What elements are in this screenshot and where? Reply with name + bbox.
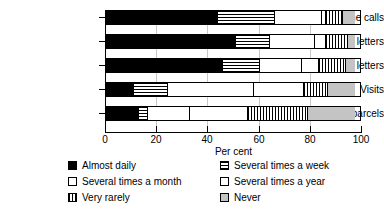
- segment-several-times-a-year: [189, 107, 247, 120]
- bar-receiving-letters: [105, 58, 361, 73]
- x-tick-100: [361, 126, 362, 133]
- segment-very-rarely: [325, 35, 348, 48]
- legend-column-right: Several times a week Several times a yea…: [220, 158, 329, 206]
- legend-swatch-never: [220, 193, 229, 202]
- legend-item-very-rarely: Very rarely: [68, 190, 182, 205]
- segment-never: [342, 11, 355, 24]
- segment-almost-daily: [106, 59, 223, 72]
- x-tick-label-40: 40: [192, 134, 222, 145]
- legend-item-never: Never: [220, 190, 329, 205]
- segment-very-rarely: [303, 83, 328, 96]
- segment-almost-daily: [106, 35, 236, 48]
- legend-label-several-times-a-year: Several times a year: [234, 176, 325, 188]
- segment-almost-daily: [106, 11, 218, 24]
- x-tick-60: [259, 126, 260, 133]
- segment-very-rarely: [325, 11, 343, 24]
- legend-label-almost-daily: Almost daily: [82, 160, 136, 172]
- x-tick-label-80: 80: [295, 134, 325, 145]
- bar-making-phone-calls: [105, 10, 361, 25]
- legend-swatch-several-times-a-year: [220, 177, 229, 186]
- legend-swatch-several-times-a-week: [220, 161, 229, 170]
- bar-writing-letters: [105, 34, 361, 49]
- x-tick-label-20: 20: [141, 134, 171, 145]
- stacked-bar-chart: Making phone calls Writing letters Recei…: [0, 0, 384, 209]
- legend-swatch-almost-daily: [68, 161, 77, 170]
- segment-several-times-a-month: [259, 59, 302, 72]
- legend-item-almost-daily: Almost daily: [68, 158, 182, 173]
- x-tick-40: [207, 126, 208, 133]
- x-tick-80: [310, 126, 311, 133]
- bar-receiving-parcels: [105, 106, 361, 121]
- segment-almost-daily: [106, 107, 139, 120]
- segment-several-times-a-week: [235, 35, 271, 48]
- segment-several-times-a-week: [133, 83, 169, 96]
- legend-column-left: Almost daily Several times a month Very …: [68, 158, 182, 206]
- segment-several-times-a-month: [274, 11, 322, 24]
- legend-item-several-times-a-week: Several times a week: [220, 158, 329, 173]
- segment-never: [345, 59, 355, 72]
- legend-swatch-several-times-a-month: [68, 177, 77, 186]
- segment-never: [347, 35, 355, 48]
- segment-several-times-a-month: [167, 83, 253, 96]
- legend-label-never: Never: [234, 192, 261, 204]
- segment-never: [327, 83, 355, 96]
- segment-almost-daily: [106, 83, 134, 96]
- legend-label-several-times-a-week: Several times a week: [234, 160, 329, 172]
- legend-label-very-rarely: Very rarely: [82, 192, 130, 204]
- x-tick-label-60: 60: [244, 134, 274, 145]
- legend-swatch-very-rarely: [68, 193, 77, 202]
- x-axis-line: [105, 132, 362, 133]
- segment-very-rarely: [247, 107, 308, 120]
- segment-very-rarely: [318, 59, 346, 72]
- legend-label-several-times-a-month: Several times a month: [82, 176, 182, 188]
- x-tick-0: [105, 126, 106, 133]
- segment-several-times-a-year: [301, 59, 319, 72]
- segment-several-times-a-month: [147, 107, 190, 120]
- bar-visits: [105, 82, 361, 97]
- x-tick-20: [156, 126, 157, 133]
- legend-item-several-times-a-month: Several times a month: [68, 174, 182, 189]
- segment-several-times-a-year: [253, 83, 304, 96]
- x-tick-label-100: 100: [346, 134, 376, 145]
- segment-several-times-a-week: [222, 59, 260, 72]
- legend-item-several-times-a-year: Several times a year: [220, 174, 329, 189]
- segment-never: [307, 107, 355, 120]
- x-axis-title: Per cent: [105, 146, 362, 157]
- segment-several-times-a-week: [217, 11, 275, 24]
- legend: Almost daily Several times a month Very …: [68, 158, 384, 206]
- x-tick-label-0: 0: [90, 134, 120, 145]
- segment-several-times-a-month: [269, 35, 315, 48]
